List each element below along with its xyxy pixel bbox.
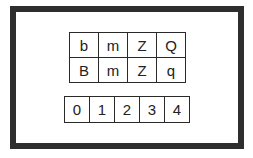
digit-row-cells: 0 1 2 3 4 <box>65 97 190 123</box>
digit-row: 0 1 2 3 4 <box>64 96 190 123</box>
letter-cell: m <box>99 58 128 83</box>
letter-grid: b m Z Q B m Z q <box>69 32 186 83</box>
letter-cell: B <box>70 58 99 83</box>
letter-cell: m <box>99 33 128 58</box>
letter-cell: Z <box>128 58 157 83</box>
digit-cell: 3 <box>140 97 165 123</box>
letter-cell: Q <box>157 33 186 58</box>
digit-cell: 1 <box>90 97 115 123</box>
letter-cell: q <box>157 58 186 83</box>
letter-cell: Z <box>128 33 157 58</box>
digit-cell: 2 <box>115 97 140 123</box>
digit-cell: 0 <box>65 97 90 123</box>
letter-grid-row: b m Z Q <box>70 33 186 58</box>
digit-cell: 4 <box>165 97 190 123</box>
letter-grid-row: B m Z q <box>70 58 186 83</box>
letter-cell: b <box>70 33 99 58</box>
